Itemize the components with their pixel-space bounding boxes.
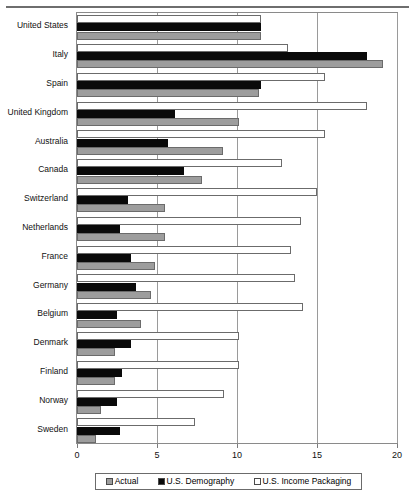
bar-demography bbox=[77, 311, 117, 319]
legend-item-actual: Actual bbox=[106, 477, 139, 486]
chart-legend: ActualU.S. DemographyU.S. Income Packagi… bbox=[95, 473, 362, 490]
x-tick bbox=[317, 444, 318, 448]
bar-income-packaging bbox=[77, 130, 325, 138]
x-tick-label: 5 bbox=[154, 450, 159, 460]
bar-demography bbox=[77, 139, 168, 147]
x-tick-label: 0 bbox=[74, 450, 79, 460]
x-tick-label: 15 bbox=[312, 450, 322, 460]
bar-demography bbox=[77, 81, 261, 89]
bar-demography bbox=[77, 52, 367, 60]
bar-income-packaging bbox=[77, 73, 325, 81]
bar-demography bbox=[77, 225, 120, 233]
bar-actual bbox=[77, 291, 151, 299]
bar-income-packaging bbox=[77, 361, 239, 369]
bar-actual bbox=[77, 435, 96, 443]
bar-actual bbox=[77, 118, 239, 126]
bar-demography bbox=[77, 283, 136, 291]
category-label: Switzerland bbox=[0, 194, 68, 203]
bar-actual bbox=[77, 262, 155, 270]
bar-demography bbox=[77, 369, 122, 377]
legend-swatch-actual-icon bbox=[106, 478, 113, 485]
category-label: Germany bbox=[0, 281, 68, 290]
bar-income-packaging bbox=[77, 332, 239, 340]
x-tick bbox=[237, 444, 238, 448]
bar-demography bbox=[77, 398, 117, 406]
bar-income-packaging bbox=[77, 15, 261, 23]
category-label: Denmark bbox=[0, 338, 68, 347]
legend-swatch-income-packaging-icon bbox=[254, 478, 261, 485]
category-label: Finland bbox=[0, 367, 68, 376]
category-label: Canada bbox=[0, 165, 68, 174]
bar-income-packaging bbox=[77, 418, 195, 426]
top-divider-rule bbox=[6, 6, 409, 8]
bars-layer bbox=[77, 13, 397, 443]
bar-demography bbox=[77, 110, 175, 118]
bar-actual bbox=[77, 176, 202, 184]
bar-income-packaging bbox=[77, 102, 367, 110]
legend-item-demography: U.S. Demography bbox=[158, 477, 235, 486]
x-tick bbox=[397, 444, 398, 448]
bar-income-packaging bbox=[77, 303, 303, 311]
legend-item-income-packaging: U.S. Income Packaging bbox=[254, 477, 352, 486]
category-label: United Kingdom bbox=[0, 108, 68, 117]
bar-income-packaging bbox=[77, 390, 224, 398]
bar-demography bbox=[77, 254, 131, 262]
x-tick-label: 10 bbox=[232, 450, 242, 460]
category-label: Italy bbox=[0, 50, 68, 59]
category-label: France bbox=[0, 252, 68, 261]
bar-actual bbox=[77, 320, 141, 328]
bar-income-packaging bbox=[77, 188, 317, 196]
bar-actual bbox=[77, 204, 165, 212]
bar-demography bbox=[77, 23, 261, 31]
bar-demography bbox=[77, 167, 184, 175]
bar-actual bbox=[77, 60, 383, 68]
x-axis: 05101520 bbox=[76, 444, 398, 468]
bar-chart: United StatesItalySpainUnited KingdomAus… bbox=[0, 0, 415, 498]
bar-actual bbox=[77, 348, 115, 356]
category-label: Netherlands bbox=[0, 223, 68, 232]
bar-demography bbox=[77, 340, 131, 348]
x-tick bbox=[157, 444, 158, 448]
bar-income-packaging bbox=[77, 217, 301, 225]
bar-actual bbox=[77, 406, 101, 414]
category-axis-labels: United StatesItalySpainUnited KingdomAus… bbox=[0, 12, 72, 444]
plot-area bbox=[76, 12, 398, 444]
bar-income-packaging bbox=[77, 159, 282, 167]
bar-demography bbox=[77, 427, 120, 435]
bar-demography bbox=[77, 196, 128, 204]
bar-income-packaging bbox=[77, 246, 291, 254]
bar-income-packaging bbox=[77, 274, 295, 282]
legend-label: U.S. Demography bbox=[167, 477, 235, 486]
category-label: Australia bbox=[0, 137, 68, 146]
category-label: Belgium bbox=[0, 309, 68, 318]
category-label: United States bbox=[0, 21, 68, 30]
x-tick bbox=[77, 444, 78, 448]
gridline-20 bbox=[397, 13, 398, 443]
bar-actual bbox=[77, 377, 115, 385]
legend-label: U.S. Income Packaging bbox=[263, 477, 352, 486]
category-label: Norway bbox=[0, 396, 68, 405]
bar-income-packaging bbox=[77, 44, 288, 52]
category-label: Spain bbox=[0, 79, 68, 88]
legend-swatch-demography-icon bbox=[158, 478, 165, 485]
bar-actual bbox=[77, 233, 165, 241]
bar-actual bbox=[77, 89, 259, 97]
bar-actual bbox=[77, 147, 223, 155]
legend-label: Actual bbox=[115, 477, 139, 486]
x-tick-label: 20 bbox=[392, 450, 402, 460]
category-label: Sweden bbox=[0, 425, 68, 434]
bar-actual bbox=[77, 32, 261, 40]
